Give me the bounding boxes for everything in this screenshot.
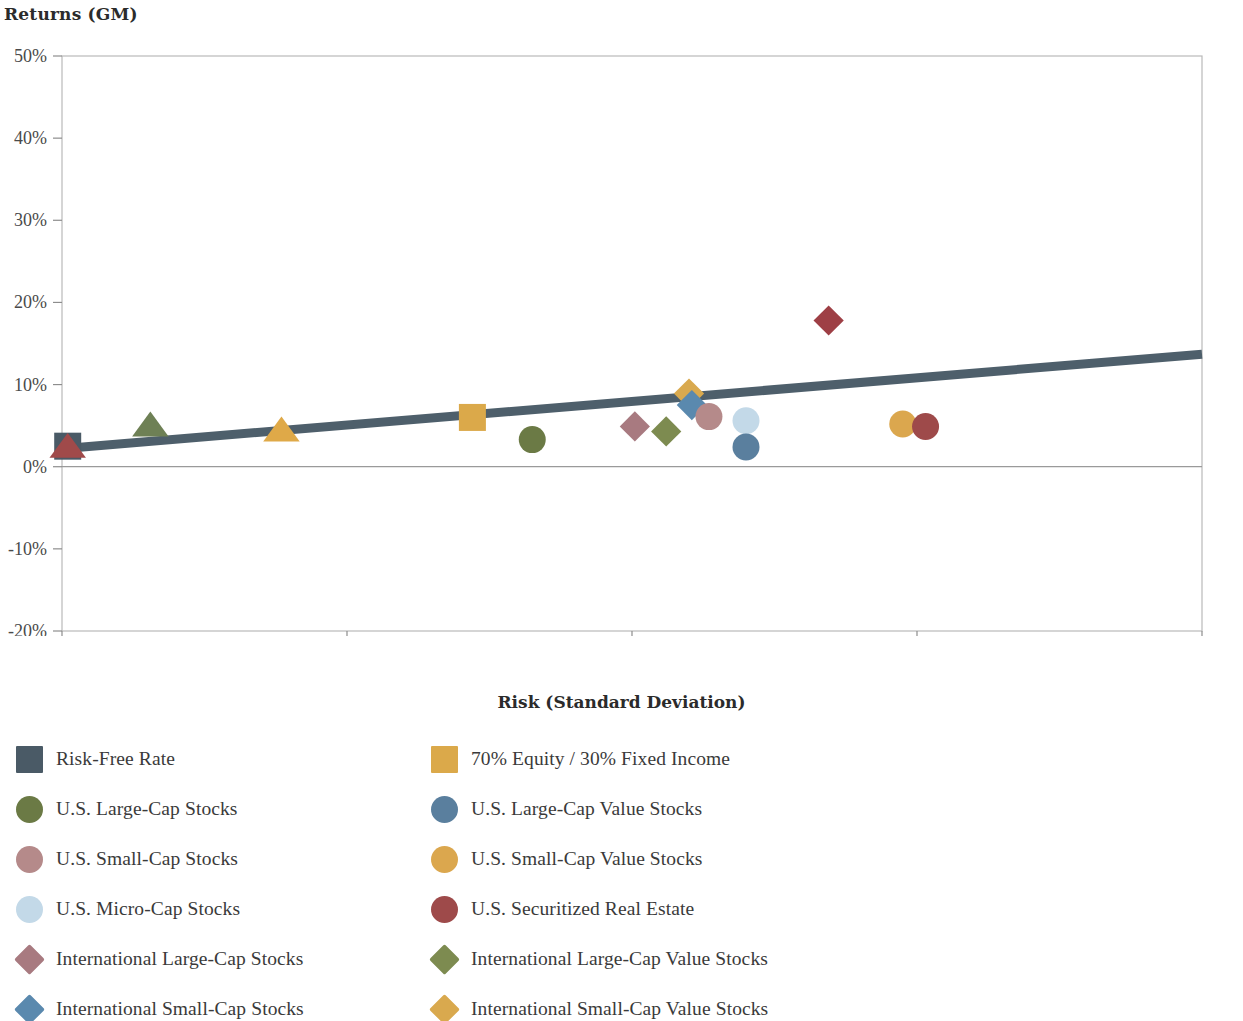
legend-swatch-circle-icon [431, 846, 458, 873]
legend-item-label: International Large-Cap Stocks [56, 948, 303, 970]
y-tick-label: 50% [14, 46, 47, 66]
legend-swatch-circle-icon [16, 796, 43, 823]
y-tick-label: 20% [14, 292, 47, 312]
legend-swatch-circle-icon [16, 896, 43, 923]
legend-item[interactable]: International Small-Cap Stocks [8, 984, 423, 1021]
x-axis-title: Risk (Standard Deviation) [0, 692, 1243, 712]
legend-item[interactable]: U.S. Large-Cap Stocks [8, 784, 423, 834]
legend-item[interactable]: U.S. Micro-Cap Stocks [8, 884, 423, 934]
legend-item[interactable]: 70% Equity / 30% Fixed Income [423, 734, 838, 784]
legend-item-label: Risk-Free Rate [56, 748, 175, 770]
y-tick-label: 0% [23, 457, 47, 477]
y-tick-label: -10% [8, 539, 47, 559]
chart-page: Returns (GM) 50%40%30%20%10%0%-10%-20%0%… [0, 0, 1243, 1021]
legend-swatch-circle-icon [431, 796, 458, 823]
chart-legend: Risk-Free Rate70% Equity / 30% Fixed Inc… [8, 734, 1240, 1021]
y-tick-label: -20% [8, 621, 47, 636]
legend-item[interactable]: International Large-Cap Value Stocks [423, 934, 838, 984]
y-tick-label: 30% [14, 210, 47, 230]
legend-item[interactable]: International Large-Cap Stocks [8, 934, 423, 984]
legend-item[interactable]: U.S. Large-Cap Value Stocks [423, 784, 838, 834]
data-point-diamond[interactable] [651, 416, 681, 446]
data-point-circle[interactable] [519, 426, 546, 453]
scatter-plot-svg: 50%40%30%20%10%0%-10%-20%0%10%20%30%40% [0, 36, 1243, 636]
legend-item-label: U.S. Securitized Real Estate [471, 898, 694, 920]
legend-item[interactable]: International Small-Cap Value Stocks [423, 984, 838, 1021]
legend-swatch-circle-icon [431, 896, 458, 923]
data-point-square[interactable] [459, 404, 486, 431]
legend-swatch-diamond-icon [14, 944, 45, 975]
legend-item-label: U.S. Large-Cap Stocks [56, 798, 238, 820]
page-title: Returns (GM) [4, 4, 138, 24]
legend-item[interactable]: Risk-Free Rate [8, 734, 423, 784]
plot-area: 50%40%30%20%10%0%-10%-20%0%10%20%30%40% [0, 36, 1243, 636]
y-tick-label: 10% [14, 375, 47, 395]
data-point-circle[interactable] [695, 403, 722, 430]
data-point-diamond[interactable] [620, 411, 650, 441]
legend-swatch-diamond-icon [429, 944, 460, 975]
legend-item-label: International Small-Cap Stocks [56, 998, 304, 1020]
legend-item[interactable]: U.S. Securitized Real Estate [423, 884, 838, 934]
data-point-circle[interactable] [733, 407, 760, 434]
data-point-diamond[interactable] [814, 305, 844, 335]
data-point-circle[interactable] [912, 413, 939, 440]
legend-item-label: 70% Equity / 30% Fixed Income [471, 748, 730, 770]
data-point-triangle[interactable] [132, 412, 168, 437]
legend-swatch-diamond-icon [429, 994, 460, 1021]
legend-item-label: International Large-Cap Value Stocks [471, 948, 768, 970]
legend-item-label: U.S. Large-Cap Value Stocks [471, 798, 702, 820]
data-point-circle[interactable] [889, 411, 916, 438]
y-tick-label: 40% [14, 128, 47, 148]
legend-item[interactable]: U.S. Small-Cap Value Stocks [423, 834, 838, 884]
legend-swatch-circle-icon [16, 846, 43, 873]
legend-swatch-diamond-icon [14, 994, 45, 1021]
legend-item[interactable]: U.S. Small-Cap Stocks [8, 834, 423, 884]
legend-swatch-square-icon [431, 746, 458, 773]
legend-item-label: U.S. Micro-Cap Stocks [56, 898, 240, 920]
legend-item-label: U.S. Small-Cap Value Stocks [471, 848, 702, 870]
data-point-circle[interactable] [733, 434, 760, 461]
legend-swatch-square-icon [16, 746, 43, 773]
plot-border [62, 56, 1202, 631]
legend-item-label: International Small-Cap Value Stocks [471, 998, 768, 1020]
legend-item-label: U.S. Small-Cap Stocks [56, 848, 238, 870]
